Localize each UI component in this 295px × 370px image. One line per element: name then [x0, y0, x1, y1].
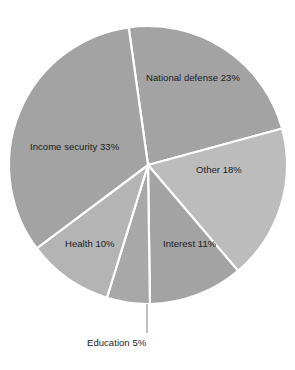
slice-label-education: Education 5%	[87, 337, 146, 348]
slice-label-income-security: Income security 33%	[30, 141, 119, 152]
slice-label-other: Other 18%	[196, 164, 242, 175]
pie-slices-group	[9, 26, 287, 304]
slice-label-health: Health 10%	[65, 238, 115, 249]
pie-chart-figure: National defense 23% Income security 33%…	[0, 0, 295, 370]
slice-label-national-defense: National defense 23%	[146, 72, 240, 83]
slice-label-interest: Interest 11%	[163, 238, 216, 249]
pie-chart-svg	[0, 0, 295, 370]
